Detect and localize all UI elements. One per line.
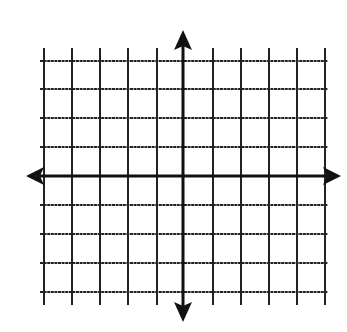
coordinate-plane (0, 0, 347, 332)
axes (26, 30, 341, 322)
